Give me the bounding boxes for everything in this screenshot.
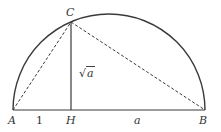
point-label-C: C [66,7,74,18]
point-label-H: H [66,115,76,126]
point-label-A: A [8,115,16,126]
segment-label-AH: 1 [36,115,43,126]
diagram-canvas: C A H B 1 a √a [0,0,221,132]
radical-argument: a [86,66,95,80]
diagram-svg [0,0,221,132]
segment-label-CH: √a [79,68,95,79]
radical-sign: √ [79,67,86,80]
point-label-B: B [199,115,207,126]
semicircle-arc [13,14,205,110]
chord-AC-dashed [13,22,71,110]
segment-label-HB: a [134,115,141,126]
